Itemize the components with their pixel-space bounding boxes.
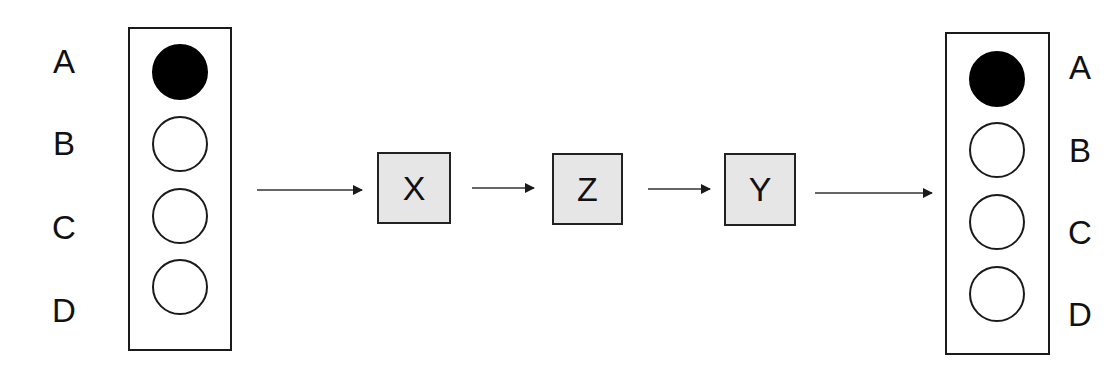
operation-node-z: Z bbox=[552, 153, 623, 225]
operation-node-y: Y bbox=[724, 153, 796, 226]
right-label-b: B bbox=[1060, 134, 1100, 167]
right-circle-b-empty bbox=[969, 122, 1025, 178]
right-label-c: C bbox=[1060, 216, 1100, 249]
right-circle-d-empty bbox=[969, 266, 1025, 322]
operation-node-x: X bbox=[377, 152, 451, 224]
operation-label-y: Y bbox=[749, 170, 772, 209]
right-label-d: D bbox=[1060, 298, 1100, 331]
right-circle-a-filled bbox=[969, 51, 1025, 107]
operation-label-z: Z bbox=[577, 170, 598, 209]
right-register-panel bbox=[945, 32, 1050, 355]
right-circle-c-empty bbox=[969, 194, 1025, 250]
operation-label-x: X bbox=[403, 169, 426, 208]
right-label-a: A bbox=[1060, 51, 1100, 84]
